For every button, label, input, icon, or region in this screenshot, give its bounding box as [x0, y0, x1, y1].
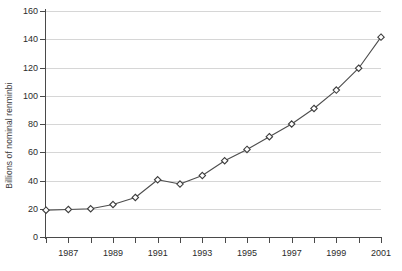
data-point-marker	[199, 172, 205, 178]
data-point-marker	[65, 206, 71, 212]
data-point-marker	[177, 181, 183, 187]
series-line	[46, 37, 381, 210]
data-point-marker	[288, 121, 294, 127]
data-point-marker	[244, 146, 250, 152]
data-point-marker	[43, 207, 49, 213]
data-point-marker	[221, 158, 227, 164]
series-layer	[0, 0, 402, 271]
series-markers	[43, 34, 384, 213]
data-point-marker	[266, 134, 272, 140]
data-point-marker	[110, 201, 116, 207]
data-point-marker	[87, 206, 93, 212]
line-chart: Billions of nominal renminbi 02040608010…	[0, 0, 402, 271]
